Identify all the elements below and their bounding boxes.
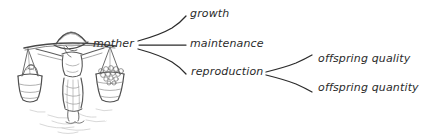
figure-canvas: mother growth maintenance reproduction o… [0, 0, 430, 136]
node-label-offspring-quality: offspring quality [318, 53, 410, 64]
edge-mother-reproduction [138, 49, 186, 74]
node-label-growth: growth [190, 8, 229, 19]
node-label-reproduction: reproduction [191, 66, 263, 77]
node-label-offspring-quantity: offspring quantity [318, 82, 419, 93]
node-label-maintenance: maintenance [190, 38, 264, 49]
mother-sketch-illustration [0, 14, 140, 136]
edge-reproduction-offspring-quantity [266, 75, 312, 92]
edge-mother-growth [138, 16, 186, 41]
node-label-mother: mother [93, 38, 134, 49]
edge-reproduction-offspring-quality [266, 55, 312, 72]
